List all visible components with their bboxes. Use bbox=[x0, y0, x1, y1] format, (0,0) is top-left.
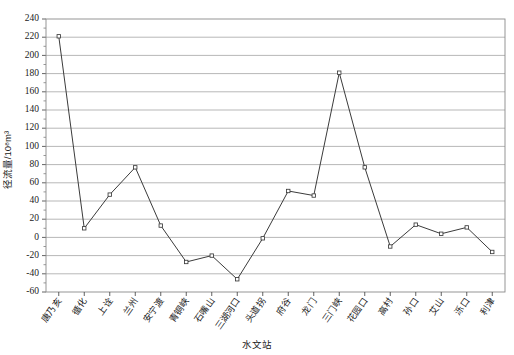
y-tick-label: 20 bbox=[30, 213, 40, 223]
y-tick-label: 0 bbox=[34, 232, 39, 242]
data-point-marker bbox=[159, 224, 162, 227]
data-point-marker bbox=[261, 237, 264, 240]
data-point-marker bbox=[57, 35, 60, 38]
y-tick-label: 120 bbox=[25, 122, 40, 132]
chart-canvas: 240220200180160140120100806040200-20-40-… bbox=[0, 0, 514, 355]
data-point-marker bbox=[440, 232, 443, 235]
data-point-marker bbox=[414, 223, 417, 226]
y-tick-label: 180 bbox=[25, 68, 40, 78]
data-point-marker bbox=[236, 278, 239, 281]
data-point-marker bbox=[210, 254, 213, 257]
runoff-line-chart: 240220200180160140120100806040200-20-40-… bbox=[0, 0, 514, 355]
y-axis-title: 径流量/10⁸m³ bbox=[2, 131, 13, 189]
data-point-marker bbox=[287, 189, 290, 192]
data-point-marker bbox=[312, 194, 315, 197]
y-tick-label: 40 bbox=[30, 195, 40, 205]
y-tick-label: 160 bbox=[25, 86, 40, 96]
data-point-marker bbox=[134, 166, 137, 169]
data-point-marker bbox=[338, 71, 341, 74]
data-point-marker bbox=[389, 245, 392, 248]
x-axis-title: 水文站 bbox=[242, 339, 272, 350]
y-tick-label: -60 bbox=[26, 286, 39, 296]
y-tick-label: 200 bbox=[25, 50, 40, 60]
data-point-marker bbox=[491, 250, 494, 253]
data-point-marker bbox=[465, 226, 468, 229]
data-point-marker bbox=[363, 166, 366, 169]
y-tick-label: 220 bbox=[25, 31, 40, 41]
y-tick-label: -40 bbox=[26, 268, 39, 278]
y-tick-label: 60 bbox=[30, 177, 40, 187]
y-tick-label: 140 bbox=[25, 104, 40, 114]
y-tick-label: 100 bbox=[25, 141, 40, 151]
data-point-marker bbox=[185, 260, 188, 263]
y-tick-label: -20 bbox=[26, 250, 39, 260]
y-tick-label: 80 bbox=[30, 159, 40, 169]
data-point-marker bbox=[83, 227, 86, 230]
data-point-marker bbox=[108, 193, 111, 196]
y-tick-label: 240 bbox=[25, 13, 40, 23]
